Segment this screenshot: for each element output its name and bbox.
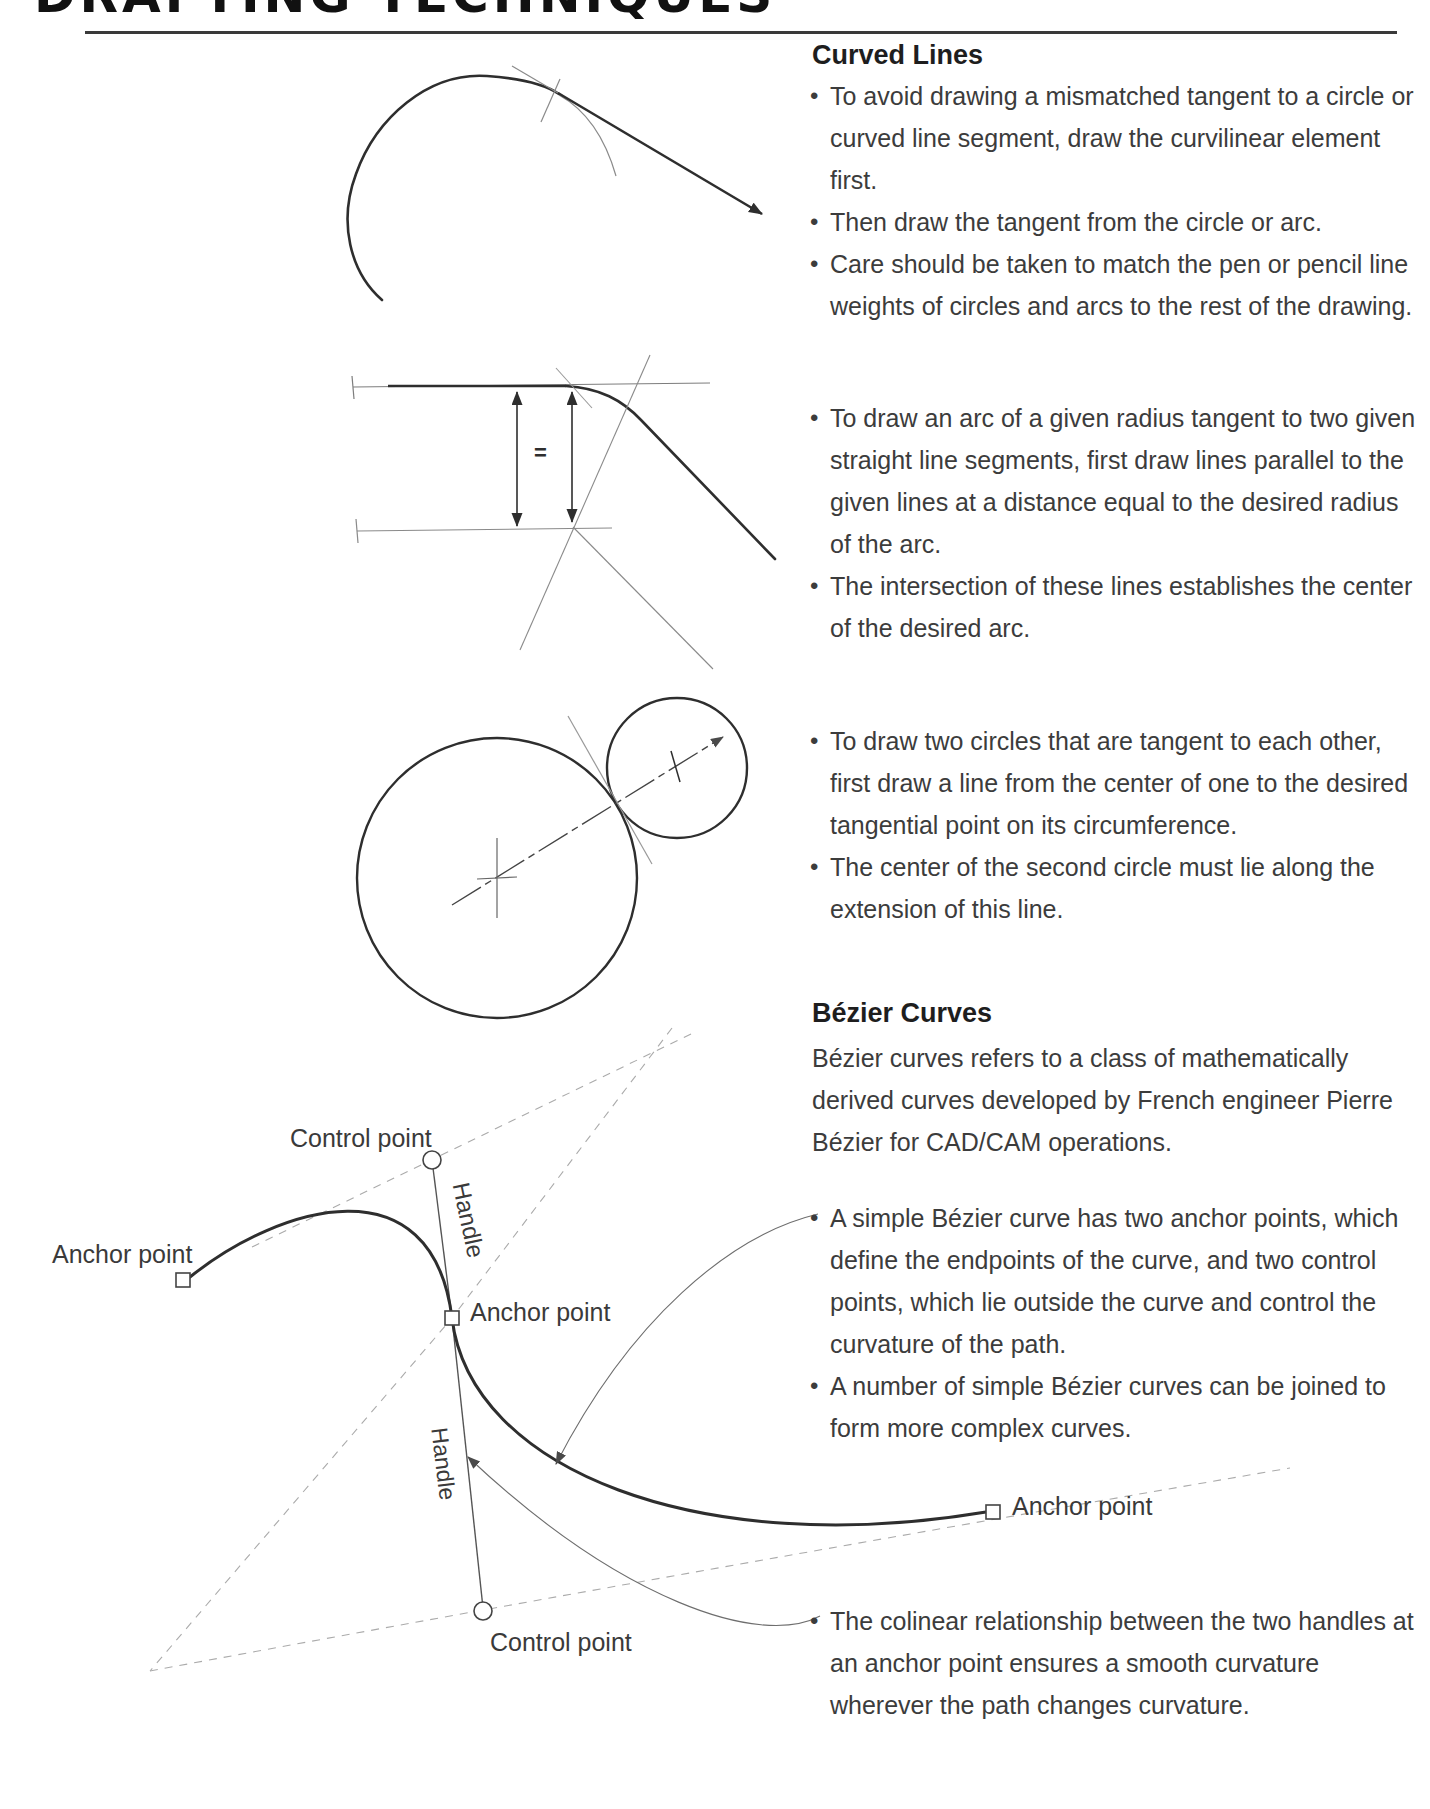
bullet-item: A number of simple Bézier curves can be … xyxy=(808,1365,1426,1449)
bullet-item: To avoid drawing a mismatched tangent to… xyxy=(808,75,1426,201)
control-point-marker-bottom xyxy=(474,1602,492,1620)
anchor-point-marker-middle xyxy=(445,1311,459,1325)
anchor-point-label-middle: Anchor point xyxy=(470,1298,610,1327)
light-arc-continuation xyxy=(559,95,616,176)
bullet-item: To draw two circles that are tangent to … xyxy=(808,720,1426,846)
main-arc xyxy=(348,76,559,300)
anchor-point-marker-left xyxy=(176,1273,190,1287)
anchor-point-label-left: Anchor point xyxy=(52,1240,192,1269)
tangent-circles-bullets: To draw two circles that are tangent to … xyxy=(808,720,1426,930)
curved-lines-heading: Curved Lines xyxy=(812,40,983,71)
bullet-item: A simple Bézier curve has two anchor poi… xyxy=(808,1197,1426,1365)
parallel-diagonal-construction xyxy=(573,527,713,669)
curved-lines-bullets: To avoid drawing a mismatched tangent to… xyxy=(808,75,1426,327)
perpendicular-construction-line xyxy=(520,355,650,650)
bullet-item: Care should be taken to match the pen or… xyxy=(808,243,1426,327)
arc-tangent-bullets: To draw an arc of a given radius tangent… xyxy=(808,397,1426,649)
control-point-marker-top xyxy=(423,1151,441,1169)
tangent-circles-diagram xyxy=(357,698,747,1018)
control-point-label-bottom: Control point xyxy=(490,1628,632,1657)
bullet-item: The colinear relationship between the tw… xyxy=(808,1600,1426,1726)
bullet-item: The center of the second circle must lie… xyxy=(808,846,1426,930)
bezier-intro: Bézier curves refers to a class of mathe… xyxy=(812,1037,1424,1163)
center-line-arrow xyxy=(452,737,723,905)
bezier-heading: Bézier Curves xyxy=(812,998,992,1029)
arc-fillet-diagram xyxy=(352,355,775,669)
bezier-curve-segment-1 xyxy=(190,1211,452,1318)
tangency-construction-line xyxy=(568,716,652,864)
tangent-arrow-line xyxy=(558,93,762,214)
bezier-bullets: A simple Bézier curve has two anchor poi… xyxy=(808,1197,1426,1449)
arc-tangent-diagram xyxy=(348,66,762,300)
anchor-point-label-right: Anchor point xyxy=(1012,1492,1152,1521)
book-page: { "header": { "title": "DRAFTING TECHNIQ… xyxy=(0,0,1430,1809)
leader-to-curve xyxy=(556,1214,818,1464)
anchor-point-marker-right xyxy=(986,1505,1000,1519)
small-center-tick xyxy=(671,751,680,782)
control-point-label-top: Control point xyxy=(290,1124,426,1153)
bullet-item: The intersection of these lines establis… xyxy=(808,565,1426,649)
leader-to-handle xyxy=(468,1457,820,1625)
small-circle xyxy=(607,698,747,838)
bullet-item: Then draw the tangent from the circle or… xyxy=(808,201,1426,243)
equal-radius-mark: = xyxy=(534,440,547,466)
fillet-arc-and-diagonal xyxy=(566,386,775,559)
parallel-horizontal-construction xyxy=(357,528,612,531)
bullet-item: To draw an arc of a given radius tangent… xyxy=(808,397,1426,565)
bezier-note-bullets: The colinear relationship between the tw… xyxy=(808,1600,1426,1726)
